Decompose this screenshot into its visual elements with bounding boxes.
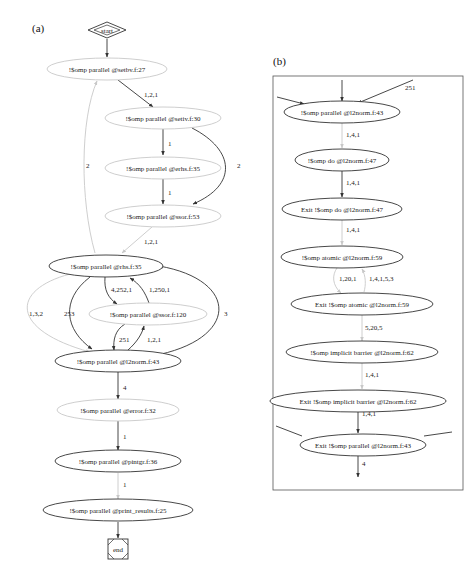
node-label: !$omp parallel @l2norm.f:43 bbox=[77, 358, 160, 366]
node-label: Exit !$omp atomic @l2norm.f:59 bbox=[315, 301, 409, 309]
panel-a-label: (a) bbox=[32, 22, 45, 35]
node-label: !$omp parallel @ssor.f:120 bbox=[110, 311, 187, 319]
node-setiv: !$omp parallel @setiv.f:30 bbox=[105, 107, 221, 129]
edge-label: 4,252,1 bbox=[111, 286, 133, 294]
edge-exitatomic59-atomic59 bbox=[362, 269, 365, 292]
node-b-exitdo47: Exit !$omp do @l2norm.f:47 bbox=[282, 198, 402, 220]
node-label: !$omp parallel @print_results.f:25 bbox=[69, 507, 167, 515]
edge-label: 1 bbox=[123, 481, 127, 489]
edge-label: 1,4,1,5,3 bbox=[369, 275, 394, 283]
node-label: !$omp parallel @l2norm.f:43 bbox=[301, 109, 384, 117]
node-b-atomic59: !$omp atomic @l2norm.f:59 bbox=[281, 246, 403, 268]
node-label: !$omp parallel @error.f:32 bbox=[80, 407, 156, 415]
node-label: !$omp parallel @rhs.f:35 bbox=[71, 263, 142, 271]
edge-label: 2 bbox=[86, 162, 90, 170]
node-label: !$omp parallel @setiv.f:30 bbox=[125, 115, 201, 123]
start-node: start bbox=[88, 22, 126, 38]
panel-b-label: (b) bbox=[273, 55, 286, 68]
edge-label: 4 bbox=[362, 460, 366, 468]
node-error: !$omp parallel @error.f:32 bbox=[57, 399, 179, 421]
node-print-results: !$omp parallel @print_results.f:25 bbox=[43, 499, 193, 521]
edge-outgoing-right bbox=[424, 432, 452, 436]
node-erhs: !$omp parallel @erhs.f:35 bbox=[105, 157, 221, 179]
node-l2norm: !$omp parallel @l2norm.f:43 bbox=[55, 350, 181, 372]
edge-label: 3 bbox=[224, 310, 228, 318]
node-label: Exit !$omp implicit barrier @l2norm.f:62 bbox=[299, 398, 417, 406]
node-b-par43: !$omp parallel @l2norm.f:43 bbox=[284, 101, 400, 123]
node-label: !$omp parallel @setbv.f:27 bbox=[69, 66, 146, 74]
node-b-exitpar43: Exit !$omp parallel @l2norm.f:43 bbox=[300, 434, 426, 456]
edge-label: 1,4,1 bbox=[346, 179, 361, 187]
node-b-exitbarrier62: Exit !$omp implicit barrier @l2norm.f:62 bbox=[270, 390, 446, 412]
edge-label: 5,20,5 bbox=[365, 324, 383, 332]
edge-label: 251 bbox=[119, 336, 130, 344]
edge-label: 1,2,1 bbox=[147, 336, 162, 344]
node-ssor120: !$omp parallel @ssor.f:120 bbox=[89, 303, 207, 325]
node-rhs: !$omp parallel @rhs.f:35 bbox=[49, 255, 163, 277]
node-pintgr: !$omp parallel @pintgr.f:36 bbox=[55, 450, 181, 472]
start-label: start bbox=[101, 27, 113, 35]
node-label: !$omp do @l2norm.f:47 bbox=[308, 157, 377, 165]
node-label: !$omp parallel @erhs.f:35 bbox=[126, 165, 200, 173]
edge-label: 1,4,1 bbox=[346, 131, 361, 139]
edge-label: 251 bbox=[405, 84, 416, 92]
node-label: !$omp implicit barrier @l2norm.f:62 bbox=[310, 349, 414, 357]
node-b-do47: !$omp do @l2norm.f:47 bbox=[295, 149, 389, 171]
edge-label: 1,2,1 bbox=[144, 91, 159, 99]
edge-label: 1 bbox=[123, 433, 127, 441]
edge-label: 1,2,1 bbox=[144, 238, 159, 246]
edge-label: 1,4,1 bbox=[346, 226, 361, 234]
edge-incoming-left bbox=[277, 97, 304, 104]
node-b-barrier62: !$omp implicit barrier @l2norm.f:62 bbox=[286, 341, 438, 363]
edge-outgoing-left bbox=[276, 426, 302, 436]
edge-label: 1 bbox=[168, 140, 172, 148]
edge-label: 1,3,2 bbox=[29, 310, 44, 318]
node-label: Exit !$omp do @l2norm.f:47 bbox=[301, 206, 383, 214]
node-setbv: !$omp parallel @setbv.f:27 bbox=[47, 58, 167, 80]
edge-label: 1,4,1 bbox=[365, 371, 380, 379]
node-label: Exit !$omp parallel @l2norm.f:43 bbox=[315, 442, 411, 450]
edge-label: 253 bbox=[64, 310, 75, 318]
edge-ssor120-rhs bbox=[130, 278, 149, 303]
edge-label: 4 bbox=[123, 384, 127, 392]
node-ssor53: !$omp parallel @ssor.f:53 bbox=[105, 205, 221, 227]
edge-label: 1,20,1 bbox=[339, 275, 357, 283]
end-label: end bbox=[113, 546, 124, 554]
edge-l2norm-ssor120 bbox=[128, 326, 144, 350]
panel-b-frame bbox=[273, 76, 463, 490]
end-node: end bbox=[108, 539, 128, 559]
edge-label: 2 bbox=[237, 162, 241, 170]
node-label: !$omp parallel @pintgr.f:36 bbox=[79, 458, 158, 466]
edge-label: 1,250,1 bbox=[149, 286, 171, 294]
panel-a-edge-labels: 1,2,1 1 2 1 1,2,1 2 4,252,1 1,250,1 1,3,… bbox=[29, 91, 241, 489]
node-label: !$omp parallel @ssor.f:53 bbox=[126, 213, 200, 221]
node-label: !$omp atomic @l2norm.f:59 bbox=[302, 254, 383, 262]
diagram-canvas: (a) start 1,2,1 1 2 1 1,2,1 2 4,252,1 bbox=[0, 0, 472, 577]
node-b-exitatomic59: Exit !$omp atomic @l2norm.f:59 bbox=[291, 293, 433, 315]
edge-label: 1 bbox=[168, 189, 172, 197]
